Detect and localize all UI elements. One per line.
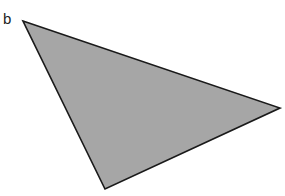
triangle-figure xyxy=(0,0,285,196)
triangle-shape xyxy=(23,21,280,189)
